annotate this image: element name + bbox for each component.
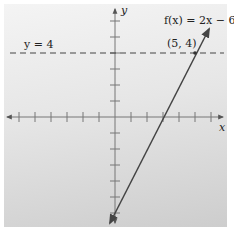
horizontal-line-label: y = 4 [23,38,53,51]
y-axis-label: y [120,4,128,17]
x-axis-label: x [219,121,226,134]
coordinate-plane: y x y = 4 f(x) = 2x − 6 (5, 4) [0,0,234,235]
function-line [110,29,209,223]
function-label: f(x) = 2x − 6 [164,14,234,27]
intersection-point [193,51,197,55]
intersection-label: (5, 4) [167,37,197,50]
